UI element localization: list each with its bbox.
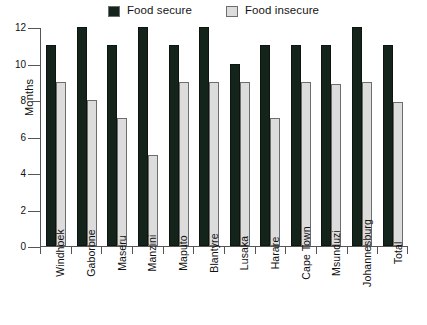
bar-group [347, 28, 378, 246]
bar-chart: Food secure Food insecure Months 0246810… [0, 0, 427, 325]
bar-food-secure [138, 27, 148, 246]
y-axis-tick: 2 [28, 211, 41, 212]
plot-area: Months 024681012 [40, 28, 408, 247]
y-axis-tick-label: 0 [20, 241, 26, 253]
bar-group [194, 28, 225, 246]
bar-food-insecure [270, 118, 280, 246]
x-axis-label-cell: Maseru [101, 250, 132, 325]
x-axis-label-cell: Gaborone [71, 250, 102, 325]
legend-label-food-secure: Food secure [127, 5, 192, 17]
bar-food-insecure [209, 82, 219, 246]
bar-group [286, 28, 317, 246]
x-axis-label: Johannesburg [362, 219, 373, 287]
x-axis-label-cell: Maputo [163, 250, 194, 325]
bars-layer [41, 28, 408, 246]
y-axis-tick: 8 [28, 101, 41, 102]
bar-group [255, 28, 286, 246]
bar-food-secure [77, 27, 87, 246]
bar-food-insecure [301, 82, 311, 246]
x-axis-label: Windhoek [55, 229, 66, 277]
bar-food-secure [230, 64, 240, 247]
x-axis-label: Cape Town [301, 226, 312, 279]
bar-food-secure [291, 45, 301, 246]
x-axis-label: Lusaka [239, 236, 250, 270]
bar-food-secure [321, 45, 331, 246]
bar-food-secure [46, 45, 56, 246]
bar-food-insecure [240, 82, 250, 246]
bar-group [224, 28, 255, 246]
chart-legend: Food secure Food insecure [0, 0, 427, 22]
bar-group [316, 28, 347, 246]
bar-food-insecure [148, 155, 158, 246]
y-axis-tick: 12 [28, 28, 41, 29]
x-axis-label: Blantyre [209, 233, 220, 272]
bar-food-insecure [179, 82, 189, 246]
x-axis-label: Gaborone [86, 229, 97, 277]
y-axis-tick: 6 [28, 138, 41, 139]
bar-food-secure [107, 45, 117, 246]
x-axis-label-cell: Harare [255, 250, 286, 325]
x-axis-label: Harare [270, 237, 281, 270]
x-axis-label: Msunduzi [331, 230, 342, 276]
bar-group [377, 28, 408, 246]
x-axis-label: Manzini [147, 235, 158, 272]
legend-item-food-secure: Food secure [108, 5, 192, 17]
bar-group [72, 28, 103, 246]
bar-food-insecure [393, 102, 403, 246]
bar-food-secure [199, 27, 209, 246]
bar-group [102, 28, 133, 246]
bar-food-insecure [331, 84, 341, 246]
bar-group [41, 28, 72, 246]
x-axis-label-cell: Windhoek [40, 250, 71, 325]
legend-swatch-food-insecure-icon [226, 6, 238, 17]
bar-group [133, 28, 164, 246]
bar-food-secure [352, 27, 362, 246]
x-axis-label-cell: Blantyre [193, 250, 224, 325]
legend-swatch-food-secure-icon [108, 6, 120, 17]
y-axis-tick-label: 6 [20, 132, 26, 144]
x-axis-labels: WindhoekGaboroneMaseruManziniMaputoBlant… [40, 250, 408, 325]
bar-food-secure [383, 45, 393, 246]
bar-food-insecure [56, 82, 66, 246]
x-axis-label-cell: Msunduzi [316, 250, 347, 325]
y-axis-tick-label: 4 [20, 168, 26, 180]
x-axis-label-cell: Johannesburg [347, 250, 378, 325]
x-axis-label-cell: Total [377, 250, 408, 325]
y-axis-tick: 10 [28, 65, 41, 66]
x-axis-label-cell: Lusaka [224, 250, 255, 325]
y-axis-tick-label: 8 [20, 95, 26, 107]
bar-group [163, 28, 194, 246]
x-axis-label: Maseru [117, 235, 128, 271]
x-axis-label: Total [393, 242, 404, 265]
bar-food-secure [260, 45, 270, 246]
y-axis-tick-label: 12 [15, 22, 26, 34]
y-axis-tick: 4 [28, 174, 41, 175]
x-axis-label: Maputo [178, 235, 189, 271]
legend-item-food-insecure: Food insecure [226, 5, 319, 17]
legend-label-food-insecure: Food insecure [245, 5, 319, 17]
bar-food-secure [169, 45, 179, 246]
y-axis-tick-label: 2 [20, 205, 26, 217]
y-axis-tick-label: 10 [15, 59, 26, 71]
x-axis-label-cell: Cape Town [285, 250, 316, 325]
x-axis-label-cell: Manzini [132, 250, 163, 325]
bar-food-insecure [87, 100, 97, 246]
bar-food-insecure [117, 118, 127, 246]
